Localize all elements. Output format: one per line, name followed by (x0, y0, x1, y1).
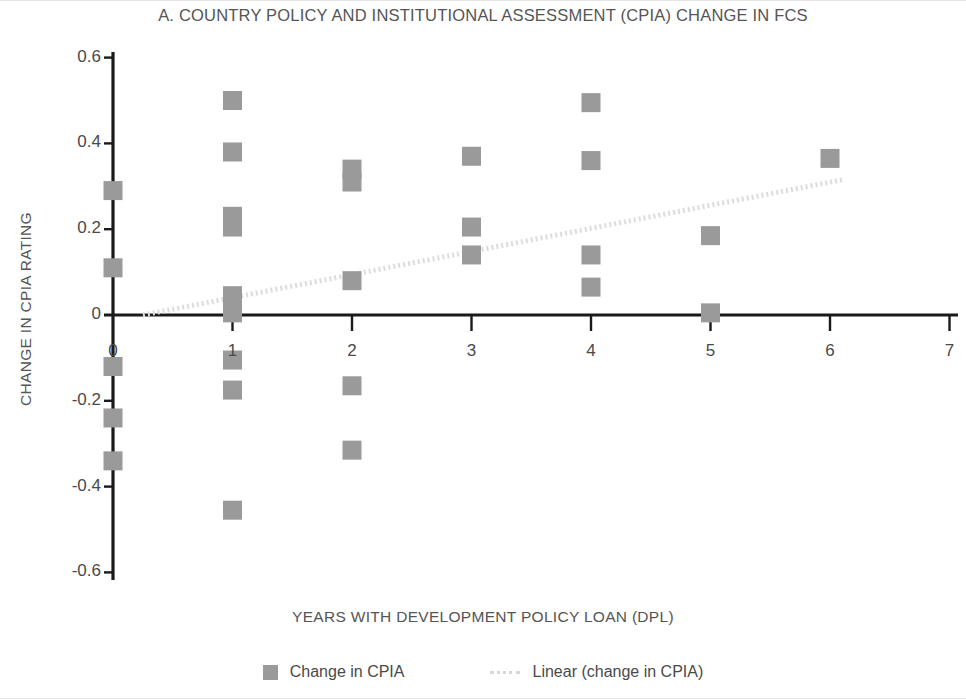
legend-label-linear-change-in-cpia: Linear (change in CPIA) (532, 663, 703, 681)
data-point-marker (104, 408, 123, 427)
data-point-marker (582, 278, 601, 297)
y-tick-label: 0.6 (41, 47, 101, 67)
figure: A. COUNTRY POLICY AND INSTITUTIONAL ASSE… (0, 0, 966, 699)
data-point-marker (104, 181, 123, 200)
data-point-marker (821, 149, 840, 168)
y-tick-label: 0.4 (41, 132, 101, 152)
x-tick-label: 4 (576, 341, 606, 361)
data-point-marker (343, 271, 362, 290)
data-point-marker (462, 218, 481, 237)
data-point-marker (223, 303, 242, 322)
x-tick-marks (233, 315, 950, 331)
data-point-marker (223, 286, 242, 305)
x-tick-label: 3 (457, 341, 487, 361)
y-tick-label: 0 (41, 304, 101, 324)
x-tick-label: 0 (98, 341, 128, 361)
data-point-marker (223, 91, 242, 110)
x-tick-label: 1 (218, 341, 248, 361)
data-point-marker (104, 451, 123, 470)
x-tick-label: 2 (337, 341, 367, 361)
y-tick-label: -0.4 (41, 476, 101, 496)
x-tick-label: 5 (696, 341, 726, 361)
data-points (104, 91, 840, 520)
chart-legend: Change in CPIA Linear (change in CPIA) (0, 663, 966, 681)
legend-marker-square-icon (263, 665, 278, 680)
y-tick-label: 0.2 (41, 218, 101, 238)
data-point-marker (343, 441, 362, 460)
data-point-marker (701, 303, 720, 322)
data-point-marker (462, 147, 481, 166)
legend-item-linear-change-in-cpia: Linear (change in CPIA) (490, 663, 703, 681)
x-tick-label: 7 (935, 341, 965, 361)
data-point-marker (343, 173, 362, 192)
legend-item-change-in-cpia: Change in CPIA (263, 663, 405, 681)
data-point-marker (343, 376, 362, 395)
data-point-marker (223, 501, 242, 520)
x-tick-label: 6 (815, 341, 845, 361)
data-point-marker (223, 381, 242, 400)
data-point-marker (582, 151, 601, 170)
data-point-marker (462, 245, 481, 264)
data-point-marker (582, 245, 601, 264)
y-tick-label: -0.2 (41, 390, 101, 410)
legend-marker-line-icon (490, 671, 520, 674)
data-point-marker (582, 93, 601, 112)
y-tick-label: -0.6 (41, 561, 101, 581)
legend-label-change-in-cpia: Change in CPIA (290, 663, 405, 681)
trendline (143, 180, 842, 315)
data-point-marker (223, 142, 242, 161)
trendline-path (143, 180, 842, 315)
data-point-marker (701, 226, 720, 245)
data-point-marker (104, 258, 123, 277)
data-point-marker (223, 218, 242, 237)
